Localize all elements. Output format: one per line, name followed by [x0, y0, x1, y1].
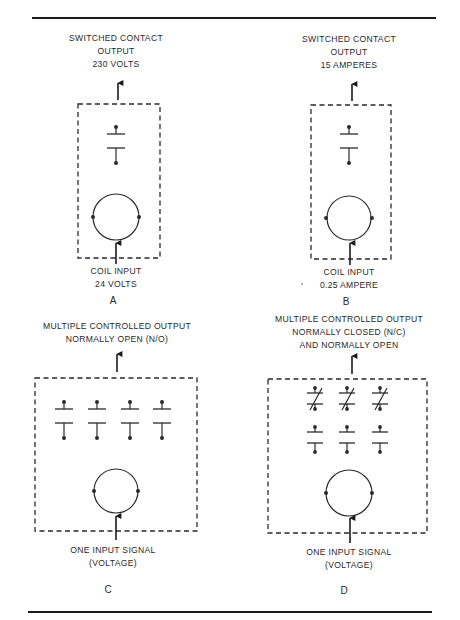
panel-d-no-contact-1-icon — [307, 425, 323, 454]
panel-b-coil-icon — [324, 196, 374, 240]
panel-c-coil-icon — [92, 469, 140, 513]
panel-c — [35, 354, 197, 540]
panel-d-no-contact-3-icon — [372, 425, 388, 454]
panel-a — [78, 83, 160, 264]
panel-b — [301, 84, 391, 285]
panel-b-relay-boundary — [311, 105, 391, 259]
panel-c-no-contact-4-icon — [153, 400, 171, 440]
panel-c-no-contact-3-icon — [121, 400, 139, 440]
relay-diagram — [0, 0, 460, 620]
panel-a-coil-icon — [91, 194, 141, 240]
panel-d-relay-boundary — [268, 379, 427, 533]
panel-d-coil-icon — [324, 470, 374, 516]
panel-a-no-contact-icon — [107, 125, 125, 165]
panel-d-no-contact-2-icon — [339, 425, 355, 454]
panel-c-no-contact-2-icon — [88, 400, 106, 440]
panel-d-nc-contact-2-icon — [339, 386, 355, 411]
stray-mark — [301, 283, 303, 285]
panel-a-relay-boundary — [78, 104, 160, 258]
panel-c-relay-boundary — [35, 378, 197, 531]
panel-d-nc-contact-1-icon — [307, 386, 323, 411]
panel-d — [268, 356, 427, 543]
panel-c-no-contact-1-icon — [55, 400, 73, 440]
panel-b-no-contact-icon — [340, 125, 358, 165]
panel-d-nc-contact-3-icon — [372, 386, 388, 411]
